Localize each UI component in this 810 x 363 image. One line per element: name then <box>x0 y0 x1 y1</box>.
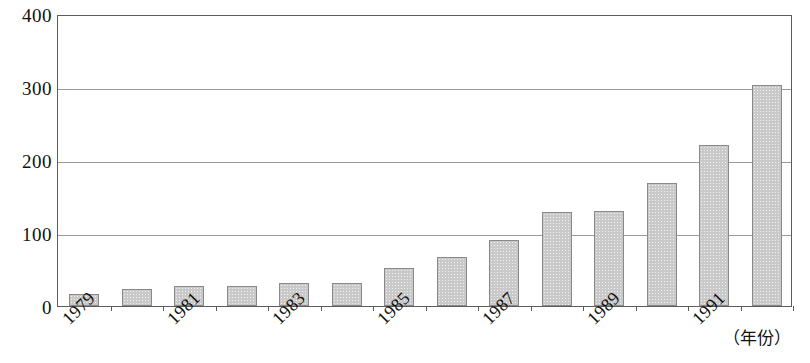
bar <box>227 286 257 306</box>
bar <box>542 212 572 306</box>
bar <box>332 283 362 306</box>
plot-area <box>57 15 792 307</box>
bar <box>437 257 467 306</box>
y-tick-label: 200 <box>6 152 52 171</box>
bar <box>699 145 729 306</box>
bar-chart: 0100200300400 19791981198319851987198919… <box>0 0 810 363</box>
bar <box>647 183 677 306</box>
x-axis: 1979198119831985198719891991 <box>0 307 810 363</box>
y-tick-label: 100 <box>6 225 52 244</box>
bars-series <box>58 16 791 306</box>
y-tick-label: 300 <box>6 79 52 98</box>
bar <box>752 85 782 306</box>
y-tick-label: 400 <box>6 6 52 25</box>
x-axis-title: （年份） <box>723 330 791 347</box>
bar <box>122 289 152 306</box>
